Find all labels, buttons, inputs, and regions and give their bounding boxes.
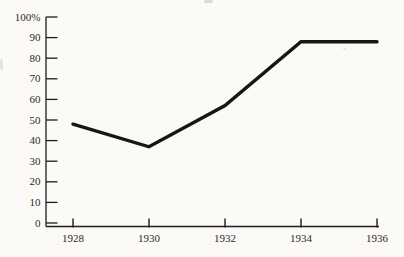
x-tick-label: 1928 (62, 232, 85, 244)
y-tick-label: 90 (30, 31, 42, 43)
x-tick-label: 1936 (366, 232, 389, 244)
line-chart-figure: 0102030405060708090100%19281930193219341… (0, 0, 404, 257)
y-tick-label: 0 (35, 217, 41, 229)
y-tick-label: 100% (15, 11, 41, 23)
x-tick-label: 1934 (290, 232, 313, 244)
y-tick-label: 40 (30, 134, 42, 146)
y-tick-label: 30 (30, 155, 42, 167)
y-tick-label: 80 (30, 52, 42, 64)
data-line-percentage (73, 42, 377, 147)
y-tick-label: 70 (30, 72, 42, 84)
y-tick-label: 50 (30, 114, 42, 126)
y-tick-label: 20 (30, 175, 42, 187)
y-tick-label: 10 (30, 196, 42, 208)
x-tick-label: 1932 (214, 232, 236, 244)
y-tick-label: 60 (30, 93, 42, 105)
x-tick-label: 1930 (138, 232, 161, 244)
chart-canvas: 0102030405060708090100%19281930193219341… (0, 0, 404, 257)
